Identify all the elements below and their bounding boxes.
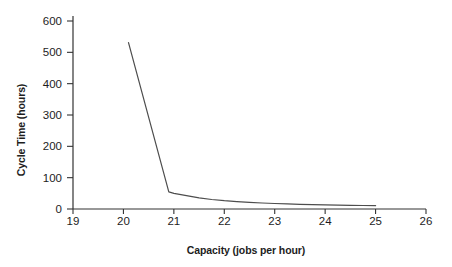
y-tick-label: 500 — [43, 46, 62, 58]
y-tick-label: 400 — [43, 78, 62, 90]
y-tick-label: 600 — [43, 15, 62, 27]
y-axis-title: Cycle Time (hours) — [15, 84, 27, 177]
cycle-time-vs-capacity-curve — [129, 43, 376, 206]
x-tick-label: 20 — [117, 215, 130, 227]
data-series — [129, 43, 376, 206]
x-axis-title: Capacity (jobs per hour) — [187, 244, 305, 256]
plot-area: 1920212223242526 0100200300400500600 Cap… — [0, 0, 452, 267]
x-tick-label: 23 — [268, 215, 281, 227]
y-tick-label: 300 — [43, 109, 62, 121]
y-axis-tick-labels: 0100200300400500600 — [43, 15, 62, 215]
x-tick-label: 25 — [369, 215, 382, 227]
x-tick-label: 21 — [167, 215, 180, 227]
y-tick-label: 0 — [56, 203, 62, 215]
axes — [73, 16, 426, 209]
x-tick-label: 24 — [319, 215, 332, 227]
cycle-time-chart-figure: 1920212223242526 0100200300400500600 Cap… — [0, 0, 452, 267]
x-tick-label: 26 — [420, 215, 433, 227]
x-axis-tick-labels: 1920212223242526 — [67, 215, 433, 227]
y-tick-label: 100 — [43, 172, 62, 184]
y-axis-ticks — [67, 21, 73, 209]
x-axis-ticks — [73, 209, 426, 214]
x-tick-label: 22 — [218, 215, 231, 227]
x-tick-label: 19 — [67, 215, 80, 227]
y-tick-label: 200 — [43, 140, 62, 152]
